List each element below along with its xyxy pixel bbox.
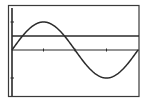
graph-screen [0, 0, 147, 108]
function-plot [0, 0, 147, 108]
plot-frame [9, 6, 140, 97]
axes [12, 8, 139, 96]
